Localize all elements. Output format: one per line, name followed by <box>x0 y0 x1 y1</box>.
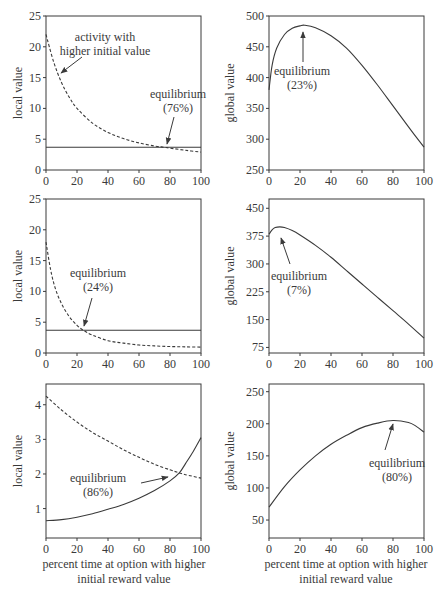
y-tick-label: 25 <box>29 192 41 206</box>
x-tick-label: 60 <box>356 357 368 371</box>
y-tick-label: 20 <box>29 40 41 54</box>
annotation-text: higher initial value <box>60 44 151 58</box>
y-tick-label: 0 <box>35 346 41 360</box>
x-tick-label: 20 <box>71 357 83 371</box>
annotation-arrow-icon <box>141 477 168 483</box>
y-tick-label: 3 <box>35 432 41 446</box>
y-tick-label: 0 <box>35 163 41 177</box>
annotation-text: equilibrium <box>369 456 426 470</box>
figure: 0204060801000510152025local valueactivit… <box>0 0 436 598</box>
x-tick-label: 80 <box>387 174 399 188</box>
x-tick-label: 100 <box>192 542 210 556</box>
y-tick-label: 15 <box>29 254 41 268</box>
y-tick-label: 50 <box>252 513 264 527</box>
x-tick-label: 40 <box>102 542 114 556</box>
chart-top-right: 020406080100250300350400450500global val… <box>223 9 433 188</box>
x-axis-label-left: percent time at option with higher initi… <box>24 557 224 587</box>
x-tick-label: 0 <box>266 174 272 188</box>
y-tick-label: 150 <box>246 313 264 327</box>
y-tick-label: 300 <box>246 132 264 146</box>
y-tick-label: 400 <box>246 71 264 85</box>
y-tick-label: 1 <box>35 502 41 516</box>
x-tick-label: 80 <box>387 542 399 556</box>
y-axis-label: local value <box>11 435 25 487</box>
x-tick-label: 60 <box>356 542 368 556</box>
x-tick-label: 20 <box>294 542 306 556</box>
annotation-arrow-icon <box>281 238 290 264</box>
x-tick-label: 20 <box>294 174 306 188</box>
y-tick-label: 200 <box>246 417 264 431</box>
annotation-text: (24%) <box>83 280 113 294</box>
x-tick-label: 40 <box>102 357 114 371</box>
annotation-text: (80%) <box>382 470 412 484</box>
chart-top-left: 0204060801000510152025local valueactivit… <box>11 9 210 188</box>
chart-bottom-right: 02040608010050100150200250global valueeq… <box>223 384 433 556</box>
x-tick-label: 40 <box>325 357 337 371</box>
x-tick-label: 80 <box>387 357 399 371</box>
x-tick-label: 40 <box>325 542 337 556</box>
x-axis-label-left-line2: initial reward value <box>24 572 224 587</box>
plot-frame <box>46 384 201 538</box>
y-tick-label: 20 <box>29 223 41 237</box>
y-axis-label: global value <box>223 432 237 491</box>
annotation-arrow-icon <box>385 424 393 450</box>
annotation-arrow-icon <box>84 298 92 326</box>
annotation-text: equilibrium <box>70 471 127 485</box>
x-tick-label: 0 <box>43 542 49 556</box>
x-tick-label: 0 <box>43 174 49 188</box>
y-tick-label: 15 <box>29 71 41 85</box>
annotation-text: equilibrium <box>70 266 127 280</box>
y-tick-label: 5 <box>35 315 41 329</box>
y-tick-label: 300 <box>246 257 264 271</box>
x-tick-label: 100 <box>415 174 433 188</box>
x-tick-label: 40 <box>325 174 337 188</box>
x-tick-label: 80 <box>164 357 176 371</box>
y-tick-label: 250 <box>246 385 264 399</box>
annotation-text: equilibrium <box>150 87 207 101</box>
x-tick-label: 60 <box>133 542 145 556</box>
x-tick-label: 20 <box>71 174 83 188</box>
y-tick-label: 375 <box>246 229 264 243</box>
y-tick-label: 350 <box>246 101 264 115</box>
chart-bottom-left: 0204060801001234local valueequilibrium(8… <box>11 384 210 556</box>
y-axis-label: local value <box>11 250 25 302</box>
annotation-text: (7%) <box>287 283 311 297</box>
x-tick-label: 60 <box>133 357 145 371</box>
y-tick-label: 10 <box>29 101 41 115</box>
y-tick-label: 450 <box>246 40 264 54</box>
dashed-series-line <box>46 242 201 347</box>
annotation-text: (76%) <box>163 101 193 115</box>
x-tick-label: 20 <box>71 542 83 556</box>
x-tick-label: 100 <box>192 357 210 371</box>
y-tick-label: 225 <box>246 285 264 299</box>
annotation-text: (23%) <box>287 78 317 92</box>
y-tick-label: 450 <box>246 201 264 215</box>
y-tick-label: 150 <box>246 449 264 463</box>
x-tick-label: 0 <box>266 542 272 556</box>
annotation-arrow-icon <box>167 117 174 144</box>
y-tick-label: 100 <box>246 481 264 495</box>
y-tick-label: 10 <box>29 284 41 298</box>
y-tick-label: 500 <box>246 9 264 23</box>
x-axis-label-right-line2: initial reward value <box>246 572 436 587</box>
plot-frame <box>269 16 424 170</box>
chart-middle-left: 0204060801000510152025local valueequilib… <box>11 192 210 371</box>
annotation-text: (86%) <box>83 485 113 499</box>
x-tick-label: 80 <box>164 174 176 188</box>
x-tick-label: 100 <box>415 542 433 556</box>
chart-middle-right: 02040608010075150225300375450global valu… <box>223 199 433 371</box>
x-axis-label-right: percent time at option with higher initi… <box>246 557 436 587</box>
annotation-arrow-icon <box>61 57 82 73</box>
x-tick-label: 0 <box>43 357 49 371</box>
y-tick-label: 2 <box>35 467 41 481</box>
y-axis-label: local value <box>11 67 25 119</box>
x-tick-label: 100 <box>415 357 433 371</box>
y-tick-label: 25 <box>29 9 41 23</box>
x-tick-label: 0 <box>266 357 272 371</box>
x-tick-label: 40 <box>102 174 114 188</box>
x-tick-label: 80 <box>164 542 176 556</box>
y-axis-label: global value <box>223 247 237 306</box>
x-tick-label: 60 <box>133 174 145 188</box>
x-tick-label: 100 <box>192 174 210 188</box>
annotation-text: equilibrium <box>271 269 328 283</box>
